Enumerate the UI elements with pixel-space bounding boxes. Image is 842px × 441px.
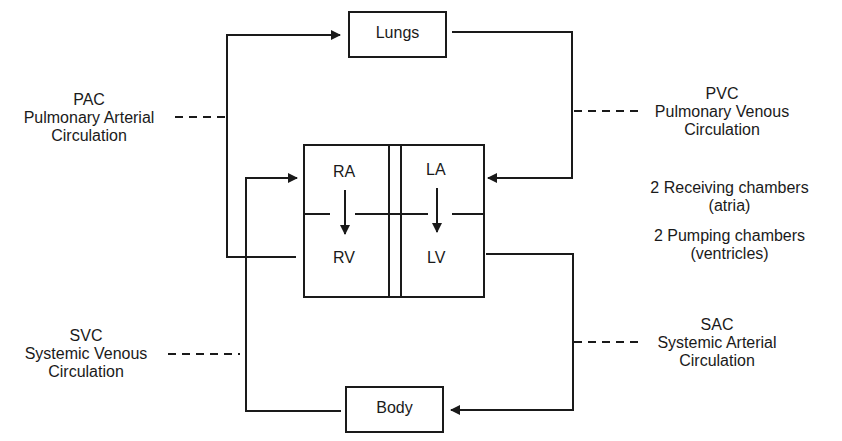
- pvc-line1: Pulmonary Venous: [642, 103, 802, 121]
- pvc-line2: Circulation: [642, 121, 802, 139]
- chamber-rv: RV: [333, 249, 355, 267]
- systemic-venous-path: [246, 178, 341, 411]
- svc-line1: Systemic Venous: [8, 345, 164, 363]
- pumping-line2: (ventricles): [642, 245, 817, 263]
- pvc-abbr: PVC: [642, 85, 802, 103]
- pac-line2: Circulation: [6, 127, 172, 145]
- chamber-lv: LV: [427, 249, 445, 267]
- pac-line1: Pulmonary Arterial: [6, 109, 172, 127]
- sac-line1: Systemic Arterial: [642, 334, 792, 352]
- pulmonary-venous-path: [452, 32, 572, 178]
- svc-line2: Circulation: [8, 363, 164, 381]
- pumping-line1: 2 Pumping chambers: [642, 227, 817, 245]
- chamber-ra: RA: [333, 163, 355, 181]
- pvc-label: PVC Pulmonary Venous Circulation: [642, 85, 802, 139]
- heart-box: [304, 145, 484, 297]
- svc-label: SVC Systemic Venous Circulation: [8, 327, 164, 381]
- systemic-arterial-path: [451, 254, 573, 410]
- chamber-la: LA: [426, 161, 446, 179]
- sac-line2: Circulation: [642, 352, 792, 370]
- lungs-label: Lungs: [349, 24, 446, 42]
- receiving-line2: (atria): [642, 197, 817, 215]
- pac-label: PAC Pulmonary Arterial Circulation: [6, 91, 172, 145]
- receiving-chambers-note: 2 Receiving chambers (atria): [642, 179, 817, 215]
- pumping-chambers-note: 2 Pumping chambers (ventricles): [642, 227, 817, 263]
- body-label: Body: [346, 399, 443, 417]
- sac-label: SAC Systemic Arterial Circulation: [642, 316, 792, 370]
- sac-abbr: SAC: [642, 316, 792, 334]
- pac-abbr: PAC: [6, 91, 172, 109]
- receiving-line1: 2 Receiving chambers: [642, 179, 817, 197]
- svc-abbr: SVC: [8, 327, 164, 345]
